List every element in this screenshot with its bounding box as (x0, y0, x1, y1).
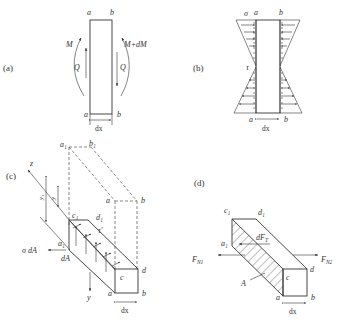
label-b-bottom: b (117, 110, 121, 119)
label-b1: b₁ (89, 139, 96, 148)
label-a: a (108, 289, 112, 298)
label-dx: dx (95, 124, 103, 133)
label-d: d (310, 265, 315, 274)
label-y1: y₁ (37, 194, 45, 201)
panel-d: (d) c₁ d₁ a₁ dFT FN1 FN2 A c d a b dx (191, 178, 333, 316)
label-tau-prime: τ′ (98, 226, 103, 235)
stress-diagram-right (280, 20, 300, 66)
label-b-upper: b (141, 196, 145, 205)
label-c: c (120, 273, 124, 282)
label-a: a (276, 293, 280, 302)
label-a-top: a (87, 8, 91, 17)
label-tau: τ (246, 63, 250, 72)
label-dx: dx (289, 307, 297, 316)
label-b-bottom: b (284, 115, 288, 124)
beam-element-outline (69, 147, 137, 270)
hatched-face (232, 219, 283, 296)
label-sigma-dA: σ dA (22, 246, 37, 255)
label-a-upper: a (106, 196, 110, 205)
label-a1: a₁ (60, 140, 67, 149)
label-moment-left: M (65, 40, 74, 49)
label-a1: a₁ (221, 239, 228, 248)
label-dFT: dFT (256, 233, 269, 243)
panel-d-tag: (d) (194, 178, 205, 188)
label-shear-right: Q (120, 63, 126, 72)
label-y-axis: y (86, 293, 91, 302)
label-FN2: FN2 (320, 255, 333, 265)
label-a-top: a (254, 8, 258, 17)
label-a-bottom: a (84, 110, 88, 119)
label-FN1: FN1 (191, 255, 204, 265)
label-b-top: b (279, 8, 283, 17)
beam-element (256, 20, 280, 113)
panel-b: (b) (193, 8, 302, 133)
label-dx: dx (262, 124, 270, 133)
label-c1: c₁ (72, 211, 79, 220)
label-d1: d₁ (96, 213, 103, 222)
label-b: b (311, 293, 315, 302)
panel-c-tag: (c) (6, 171, 16, 181)
label-c: c (286, 273, 290, 282)
panel-a: (a) a b a b M M+dM Q Q dx (3, 8, 148, 133)
label-b-top: b (110, 8, 114, 17)
panel-c: (c) a₁ b₁ a b z y₁ y (6, 139, 147, 315)
panel-b-tag: (b) (193, 63, 204, 73)
label-dA: dA (61, 254, 70, 263)
label-dx: dx (121, 306, 129, 315)
label-z: z (29, 159, 34, 168)
label-A-star: A (240, 279, 246, 288)
label-shear-left: Q (74, 63, 80, 72)
beam-element (90, 20, 112, 114)
label-c1: c₁ (224, 206, 231, 215)
label-a-bottom: a (249, 115, 253, 124)
beam-shear-stress-figure: (a) a b a b M M+dM Q Q dx (b) (0, 0, 345, 322)
label-moment-right: M+dM (123, 40, 148, 49)
label-d1: d₁ (258, 208, 265, 217)
label-a1-small: a₁ (58, 239, 65, 248)
stress-diagram-left (236, 20, 256, 66)
stress-diagram-right-lower (280, 67, 302, 113)
label-sigma: σ (244, 9, 249, 18)
label-b: b (142, 289, 146, 298)
label-d: d (142, 266, 147, 275)
z-axis (28, 170, 70, 221)
panel-a-tag: (a) (3, 63, 13, 73)
stress-diagram-left-lower (234, 67, 256, 113)
